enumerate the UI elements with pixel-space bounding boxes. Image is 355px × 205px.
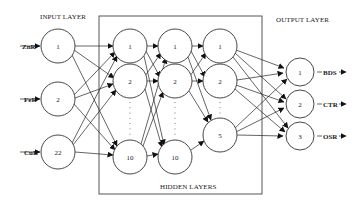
- hidden-node-number: 10: [172, 154, 180, 162]
- hidden-layer-2: 1 2 10: [158, 29, 192, 174]
- hidden-node-number: 2: [173, 78, 177, 86]
- hidden-node-number: 1: [128, 43, 132, 51]
- hidden-layer-3: 1 2 5: [203, 29, 237, 152]
- hidden-node-number: 10: [127, 154, 135, 162]
- hidden-node-number: 2: [218, 78, 222, 86]
- hidden-node-number: 2: [128, 78, 132, 86]
- output-label-bds: BDS: [323, 69, 337, 77]
- output-node-number: 3: [298, 133, 302, 141]
- hidden-node-number: 1: [173, 43, 177, 51]
- input-node-number: 22: [55, 149, 63, 157]
- input-label-fer: FeR: [24, 96, 37, 104]
- hidden-layers-title: HIDDEN LAYERS: [160, 183, 216, 191]
- input-node-number: 1: [56, 43, 60, 51]
- output-layer-title: OUTPUT LAYER: [276, 16, 329, 24]
- hidden-node-number: 5: [218, 132, 222, 140]
- output-label-osr: OSR: [323, 133, 338, 141]
- input-label-cur: CuR: [24, 149, 39, 157]
- output-label-ctr: CTR: [323, 101, 339, 109]
- hidden-node-number: 1: [218, 43, 222, 51]
- input-layer: 1 2 22: [41, 29, 75, 169]
- output-layer: 1 2 3: [286, 58, 314, 150]
- input-node-number: 2: [56, 96, 60, 104]
- input-layer-title: INPUT LAYER: [40, 13, 86, 21]
- hidden-layer-1: 1 2 10: [113, 29, 147, 174]
- output-node-number: 2: [298, 101, 302, 109]
- output-node-number: 1: [298, 69, 302, 77]
- input-label-znr: ZnR: [22, 43, 37, 51]
- neural-network-diagram: INPUT LAYER OUTPUT LAYER HIDDEN LAYERS: [0, 0, 355, 205]
